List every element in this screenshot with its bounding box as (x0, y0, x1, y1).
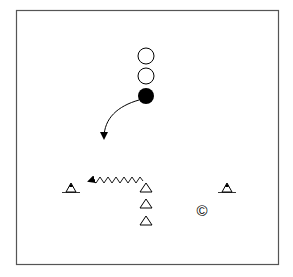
player-circle-filled (138, 88, 154, 104)
coach-symbol: © (196, 202, 207, 219)
player-circle-open-2 (138, 68, 154, 84)
drill-diagram: © (0, 0, 293, 277)
player-circle-open-1 (138, 48, 154, 64)
